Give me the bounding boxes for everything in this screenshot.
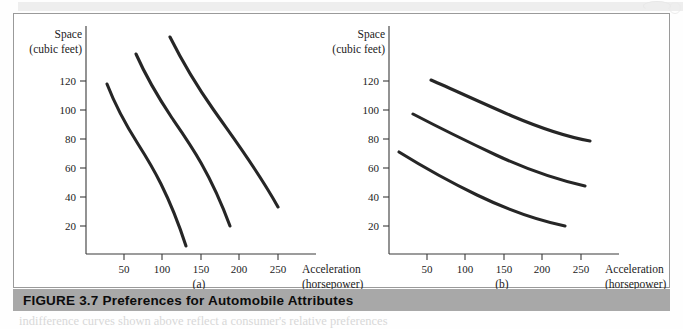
body-text-line: indifference curves shown above reflect … — [13, 313, 670, 329]
panel-a-ytick-80: 80 — [65, 133, 77, 145]
panel-a-xtick-250: 250 — [270, 263, 287, 275]
figure-panels: 20 40 60 80 100 120 50 100 150 200 250 — [14, 14, 671, 289]
panel-a-y-tick-labels: 20 40 60 80 100 120 — [60, 75, 77, 232]
panel-b-curve-3 — [399, 152, 565, 226]
panel-a-xtick-150: 150 — [193, 263, 210, 275]
figure-caption-text: FIGURE 3.7 Preferences for Automobile At… — [13, 293, 353, 308]
panel-b-x-axis-units: (horsepower) — [605, 278, 666, 289]
scan-top-strip — [18, 2, 683, 11]
panel-b-y-ticks — [383, 81, 389, 226]
body-text-fragment: indifference curves shown above reflect … — [13, 313, 670, 329]
panel-b-x-axis-label: Acceleration — [605, 263, 664, 275]
panel-b-y-axis-label: Space — [358, 28, 385, 41]
panel-a-xtick-100: 100 — [154, 263, 171, 275]
panel-b-y-tick-labels: 20 40 60 80 100 120 — [363, 75, 380, 232]
panel-b-xtick-50: 50 — [422, 263, 434, 275]
panel-b-xtick-150: 150 — [496, 263, 513, 275]
panel-a-ytick-100: 100 — [60, 104, 77, 116]
panel-a-letter: (a) — [193, 278, 206, 289]
panel-b-ytick-60: 60 — [368, 162, 380, 174]
panel-a-ytick-60: 60 — [65, 162, 77, 174]
figure-frame: 20 40 60 80 100 120 50 100 150 200 250 — [13, 13, 670, 288]
panel-b-ytick-40: 40 — [368, 191, 380, 203]
panel-b-ytick-120: 120 — [363, 75, 380, 87]
panel-a-x-axis-label: Acceleration — [302, 263, 361, 275]
panel-a-x-axis-units: (horsepower) — [302, 278, 363, 289]
panel-b-ytick-80: 80 — [368, 133, 380, 145]
panel-a-curve-3 — [170, 37, 278, 207]
figure-caption-bar: FIGURE 3.7 Preferences for Automobile At… — [13, 289, 670, 311]
panel-a-y-ticks — [80, 81, 86, 226]
panel-a-ytick-20: 20 — [65, 220, 77, 232]
panel-b-x-ticks — [427, 254, 581, 260]
panel-b-xtick-200: 200 — [534, 263, 551, 275]
panel-b-curve-1 — [431, 80, 590, 141]
panel-a-xtick-200: 200 — [231, 263, 248, 275]
panel-a-x-tick-labels: 50 100 150 200 250 — [119, 263, 287, 275]
panel-b-xtick-250: 250 — [573, 263, 590, 275]
panel-b-ytick-20: 20 — [368, 220, 380, 232]
panel-a-xtick-50: 50 — [119, 263, 131, 275]
panel-a-x-ticks — [124, 254, 278, 260]
chart-panel-b: 20 40 60 80 100 120 50 100 150 200 250 — [332, 26, 666, 289]
scan-artifact-dot-icon — [669, 2, 681, 14]
panel-b-y-axis-units: (cubic feet) — [332, 43, 385, 56]
panel-b-letter: (b) — [495, 278, 509, 289]
panel-a-y-axis-units: (cubic feet) — [29, 43, 82, 56]
chart-panel-a: 20 40 60 80 100 120 50 100 150 200 250 — [29, 26, 363, 289]
panel-a-curve-2 — [136, 54, 230, 226]
panel-a-ytick-120: 120 — [60, 75, 77, 87]
panel-a-ytick-40: 40 — [65, 191, 77, 203]
panel-a-y-axis-label: Space — [55, 28, 82, 41]
panel-b-x-tick-labels: 50 100 150 200 250 — [422, 263, 590, 275]
panel-a-curve-1 — [107, 84, 186, 246]
panel-b-ytick-100: 100 — [363, 104, 380, 116]
scan-artifact-icon — [643, 1, 671, 11]
panel-b-xtick-100: 100 — [457, 263, 474, 275]
